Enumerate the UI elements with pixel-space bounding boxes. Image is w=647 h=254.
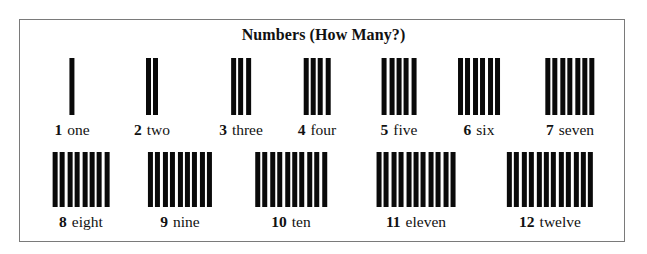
tally-bar xyxy=(307,152,312,207)
tally-bar xyxy=(391,152,396,207)
tally-bar xyxy=(285,152,290,207)
tally-bars xyxy=(53,152,110,207)
tally-bar xyxy=(238,58,243,115)
tally-bars xyxy=(146,58,158,115)
tally-label: 6six xyxy=(464,122,495,138)
tally-group-eight: 8eight xyxy=(53,152,110,230)
tally-bars xyxy=(382,58,417,115)
tally-bar xyxy=(389,58,394,115)
tally-bar xyxy=(406,152,411,207)
tally-bar xyxy=(436,152,441,207)
numeral: 1 xyxy=(54,121,62,138)
tally-bar xyxy=(207,152,212,207)
tally-bar xyxy=(318,58,323,115)
numeral: 11 xyxy=(386,213,401,230)
tally-bar xyxy=(192,152,197,207)
number-word: nine xyxy=(173,213,200,230)
tally-bar xyxy=(588,152,593,207)
tally-bar xyxy=(465,58,470,115)
number-word: four xyxy=(310,121,336,138)
tally-bars xyxy=(545,58,594,115)
numeral: 3 xyxy=(219,121,227,138)
tally-bar xyxy=(200,152,205,207)
tally-bar xyxy=(553,58,558,115)
tally-label: 5five xyxy=(381,122,418,138)
tally-bar xyxy=(69,58,74,115)
tally-bar xyxy=(153,58,158,115)
tally-group-one: 1one xyxy=(54,58,89,138)
tally-bar xyxy=(163,152,168,207)
tally-bar xyxy=(396,58,401,115)
tally-bar xyxy=(231,58,236,115)
tally-bar xyxy=(559,152,564,207)
number-word: two xyxy=(147,121,170,138)
tally-bar xyxy=(551,152,556,207)
tally-label: 10ten xyxy=(271,214,310,230)
tally-bar xyxy=(377,152,382,207)
numeral: 2 xyxy=(134,121,142,138)
tally-bar xyxy=(90,152,95,207)
number-word: three xyxy=(232,121,263,138)
tally-bar xyxy=(300,152,305,207)
tally-bar xyxy=(270,152,275,207)
numeral: 8 xyxy=(59,213,67,230)
tally-bar xyxy=(82,152,87,207)
tally-bar xyxy=(529,152,534,207)
tally-label: 8eight xyxy=(59,214,103,230)
tally-group-five: 5five xyxy=(381,58,418,138)
tally-label: 11eleven xyxy=(386,214,446,230)
tally-bar xyxy=(148,152,153,207)
tally-bar xyxy=(322,152,327,207)
tally-bar xyxy=(560,58,565,115)
tally-bar xyxy=(178,152,183,207)
tally-group-ten: 10ten xyxy=(255,152,327,230)
tally-bar xyxy=(575,58,580,115)
tally-group-two: 2two xyxy=(134,58,170,138)
tally-bars xyxy=(377,152,456,207)
tally-bar xyxy=(421,152,426,207)
tally-bar xyxy=(255,152,260,207)
tally-bar xyxy=(590,58,595,115)
tally-bar xyxy=(573,152,578,207)
tally-bar xyxy=(292,152,297,207)
tally-group-nine: 9nine xyxy=(148,152,212,230)
tally-bar xyxy=(263,152,268,207)
tally-bar xyxy=(326,58,331,115)
number-word: eleven xyxy=(406,213,446,230)
tally-bar xyxy=(522,152,527,207)
tally-bar xyxy=(581,152,586,207)
tally-bar xyxy=(311,58,316,115)
tally-bar xyxy=(97,152,102,207)
tally-group-three: 3three xyxy=(219,58,263,138)
tally-bar xyxy=(146,58,151,115)
tally-bar xyxy=(67,152,72,207)
tally-group-eleven: 11eleven xyxy=(377,152,456,230)
tally-bar xyxy=(404,58,409,115)
tally-bar xyxy=(458,58,463,115)
tally-bar xyxy=(277,152,282,207)
numeral: 4 xyxy=(298,121,306,138)
tally-group-seven: 7seven xyxy=(545,58,594,138)
numeral: 5 xyxy=(381,121,389,138)
tally-bar xyxy=(536,152,541,207)
tally-bars xyxy=(255,152,327,207)
tally-bar xyxy=(428,152,433,207)
tally-group-six: 6six xyxy=(458,58,500,138)
tally-bar xyxy=(53,152,58,207)
figure-title: Numbers (How Many?) xyxy=(0,26,647,44)
tally-bar xyxy=(514,152,519,207)
tally-label: 4four xyxy=(298,122,337,138)
tally-bar xyxy=(566,152,571,207)
tally-label: 3three xyxy=(219,122,263,138)
tally-bar xyxy=(568,58,573,115)
tally-group-four: 4four xyxy=(298,58,337,138)
tally-group-twelve: 12twelve xyxy=(507,152,593,230)
tally-bar xyxy=(155,152,160,207)
tally-bar xyxy=(443,152,448,207)
tally-bar xyxy=(544,152,549,207)
numeral: 7 xyxy=(546,121,554,138)
tally-bar xyxy=(104,152,109,207)
number-word: seven xyxy=(559,121,594,138)
number-word: one xyxy=(67,121,89,138)
tally-bar xyxy=(411,58,416,115)
